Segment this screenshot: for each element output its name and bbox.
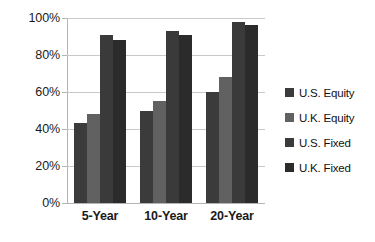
y-axis-tick-label: 100% (2, 12, 60, 25)
bar (245, 25, 258, 203)
y-tick-mark (62, 129, 67, 130)
chart-legend: U.S. EquityU.K. EquityU.S. FixedU.K. Fix… (285, 80, 375, 180)
bar (74, 123, 87, 203)
bar (87, 114, 100, 203)
legend-label: U.K. Fixed (299, 162, 351, 174)
x-axis-tick-label: 5-Year (67, 206, 133, 226)
y-axis-tick-label: 80% (2, 49, 60, 62)
bar (206, 92, 219, 203)
bar-group-10-year (140, 18, 192, 203)
gridline-0pct (67, 203, 265, 204)
legend-swatch-icon (285, 113, 294, 122)
x-axis-tick-label: 20-Year (199, 206, 265, 226)
bar-group-20-year (206, 18, 258, 203)
y-axis-tick-label: 40% (2, 123, 60, 136)
bar-chart: 0%20%40%60%80%100% 5-Year10-Year20-Year … (0, 0, 375, 242)
bar (166, 31, 179, 203)
x-axis-labels: 5-Year10-Year20-Year (67, 206, 265, 230)
legend-item: U.S. Equity (285, 80, 375, 105)
y-tick-mark (62, 92, 67, 93)
bar (100, 35, 113, 203)
y-axis-labels: 0%20%40%60%80%100% (0, 0, 60, 242)
legend-swatch-icon (285, 163, 294, 172)
bar (113, 40, 126, 203)
legend-item: U.S. Fixed (285, 130, 375, 155)
y-axis-tick-label: 60% (2, 86, 60, 99)
bar (153, 101, 166, 203)
legend-item: U.K. Equity (285, 105, 375, 130)
bar (232, 22, 245, 203)
legend-label: U.S. Fixed (299, 137, 351, 149)
bar-group-5-year (74, 18, 126, 203)
bar (219, 77, 232, 203)
y-tick-mark (62, 55, 67, 56)
y-axis-tick-label: 0% (2, 197, 60, 210)
legend-label: U.K. Equity (299, 112, 354, 124)
bar (179, 35, 192, 203)
plot-area (67, 18, 265, 203)
bar (140, 111, 153, 204)
y-axis-tick-label: 20% (2, 160, 60, 173)
legend-label: U.S. Equity (299, 87, 354, 99)
y-tick-mark (62, 18, 67, 19)
legend-item: U.K. Fixed (285, 155, 375, 180)
y-tick-mark (62, 166, 67, 167)
legend-swatch-icon (285, 88, 294, 97)
bars-layer (67, 18, 265, 203)
legend-swatch-icon (285, 138, 294, 147)
x-axis-tick-label: 10-Year (133, 206, 199, 226)
y-tick-mark (62, 203, 67, 204)
